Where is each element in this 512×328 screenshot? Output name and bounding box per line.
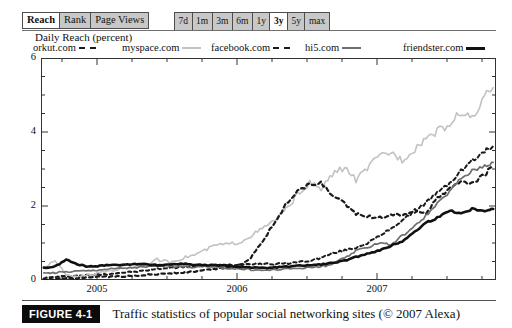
chart-plot-area bbox=[41, 58, 496, 280]
figure-page: ReachRankPage Views 7d1m3m6m1y3y5ymax Da… bbox=[0, 0, 512, 328]
legend-item-orkut[interactable]: orkut.com bbox=[33, 43, 96, 54]
range-button-3y[interactable]: 3y bbox=[270, 13, 288, 30]
x-tick-label-2006: 2006 bbox=[217, 283, 257, 294]
range-button-max[interactable]: max bbox=[305, 13, 328, 30]
legend-item-facebook[interactable]: facebook.com bbox=[211, 43, 290, 54]
legend-item-friendster[interactable]: friendster.com bbox=[403, 43, 485, 54]
metric-tab-reach[interactable]: Reach bbox=[23, 13, 60, 28]
series-line-myspace bbox=[44, 88, 493, 277]
metric-tab-bar: ReachRankPage Views bbox=[22, 12, 149, 29]
x-tick-label-2007: 2007 bbox=[357, 283, 397, 294]
plot-frame bbox=[42, 59, 496, 280]
chart-svg bbox=[41, 58, 496, 280]
legend-item-hi5[interactable]: hi5.com bbox=[305, 43, 361, 54]
range-button-3m[interactable]: 3m bbox=[213, 13, 233, 30]
time-range-button-group[interactable]: 7d1m3m6m1y3y5ymax bbox=[174, 12, 330, 31]
legend-label-myspace: myspace.com bbox=[122, 43, 179, 54]
range-button-5y[interactable]: 5y bbox=[288, 13, 306, 30]
range-button-1m[interactable]: 1m bbox=[193, 13, 213, 30]
chart-legend: orkut.commyspace.comfacebook.comhi5.comf… bbox=[33, 43, 499, 56]
legend-swatch-myspace-icon bbox=[182, 47, 201, 49]
legend-label-orkut: orkut.com bbox=[33, 43, 76, 54]
legend-swatch-orkut-icon bbox=[79, 47, 96, 49]
metric-tab-rank[interactable]: Rank bbox=[60, 13, 91, 28]
legend-item-myspace[interactable]: myspace.com bbox=[122, 43, 201, 54]
legend-swatch-hi5-icon bbox=[342, 47, 361, 49]
series-line-friendster bbox=[44, 208, 493, 268]
metric-tab-page-views[interactable]: Page Views bbox=[91, 13, 148, 28]
legend-swatch-friendster-icon bbox=[466, 47, 485, 50]
legend-label-friendster: friendster.com bbox=[403, 43, 463, 54]
range-button-7d[interactable]: 7d bbox=[175, 13, 193, 30]
y-tick-label-2: 2 bbox=[20, 199, 36, 210]
legend-swatch-facebook-icon bbox=[273, 47, 290, 49]
caption-divider bbox=[22, 300, 496, 301]
legend-label-facebook: facebook.com bbox=[211, 43, 270, 54]
x-tick-label-2005: 2005 bbox=[77, 283, 117, 294]
range-button-1y[interactable]: 1y bbox=[253, 13, 271, 30]
y-tick-label-6: 6 bbox=[20, 51, 36, 62]
y-tick-label-4: 4 bbox=[20, 125, 36, 136]
legend-label-hi5: hi5.com bbox=[305, 43, 339, 54]
metric-tab-group[interactable]: ReachRankPage Views bbox=[22, 12, 149, 29]
range-button-6m[interactable]: 6m bbox=[233, 13, 253, 30]
figure-number-badge: FIGURE 4-1 bbox=[22, 305, 100, 323]
figure-caption: FIGURE 4-1 Traffic statistics of popular… bbox=[22, 305, 460, 323]
series-line-hi5 bbox=[44, 162, 493, 273]
y-tick-label-0: 0 bbox=[20, 273, 36, 284]
figure-caption-text: Traffic statistics of popular social net… bbox=[113, 306, 460, 322]
